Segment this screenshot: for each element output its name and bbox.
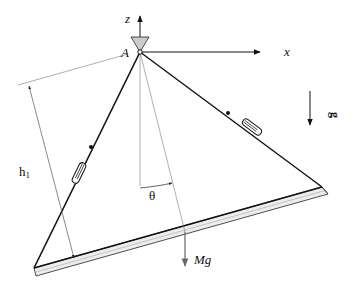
left-cable-node	[89, 145, 93, 149]
right-spring	[241, 118, 263, 137]
diagram-canvas: z x A g h1 θ Mg	[0, 0, 358, 290]
left-spring	[71, 162, 87, 185]
pivot-label: A	[120, 45, 129, 60]
pivot-point[interactable]	[138, 50, 142, 54]
right-cable-node	[226, 111, 230, 115]
z-axis-label: z	[124, 11, 130, 26]
left-cable	[34, 52, 140, 268]
right-cable	[140, 52, 322, 187]
plate	[34, 187, 328, 276]
cg-line	[140, 52, 185, 232]
height-extension-line	[18, 54, 128, 85]
angle-label: θ	[149, 188, 155, 203]
gravity-label: g	[328, 112, 342, 118]
x-axis-label: x	[283, 44, 290, 59]
weight-label: Mg	[193, 252, 212, 267]
height-label: h1	[19, 164, 30, 180]
angle-arc	[140, 183, 172, 188]
